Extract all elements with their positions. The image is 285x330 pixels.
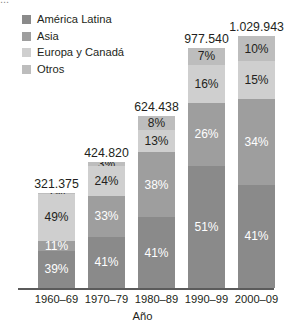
bar-total-label: 1.029.943: [229, 20, 284, 34]
bar-group[interactable]: 424.8203%24%33%41%: [88, 162, 125, 288]
plot-area: 321.3751%49%11%39%424.8203%24%33%41%624.…: [0, 0, 285, 288]
bar-segment[interactable]: 13%: [138, 130, 175, 152]
bar-total-label: 424.820: [84, 146, 128, 160]
bar-segment[interactable]: 41%: [88, 237, 125, 288]
bar-stack: 7%16%26%51%: [188, 48, 225, 288]
bar-stack: 8%13%38%41%: [138, 116, 175, 288]
bar-segment[interactable]: 10%: [238, 36, 275, 61]
bar-group[interactable]: 624.4388%13%38%41%: [138, 116, 175, 288]
bar-segment[interactable]: 49%: [38, 194, 75, 241]
bar-stack: 10%15%34%41%: [238, 36, 275, 288]
bar-stack: 3%24%33%41%: [88, 162, 125, 288]
x-axis-tick-label: 2000–09: [234, 293, 280, 305]
bar-segment[interactable]: 8%: [138, 116, 175, 130]
x-axis-tick-label: 1980–89: [134, 293, 180, 305]
bar-segment[interactable]: 38%: [138, 152, 175, 217]
bar-total-label: 321.375: [34, 177, 78, 191]
x-axis-line: [18, 288, 274, 290]
bar-group[interactable]: 1.029.94310%15%34%41%: [238, 36, 275, 288]
bar-segment[interactable]: 51%: [188, 166, 225, 288]
x-axis-tick-labels: 1960–691970–791980–891990–992000–09: [0, 293, 285, 309]
stacked-bar-chart: ... América LatinaAsiaEuropa y CanadáOtr…: [0, 0, 285, 330]
x-axis-tick-label: 1990–99: [184, 293, 230, 305]
x-axis-title: Año: [0, 310, 285, 322]
x-axis-tick-label: 1960–69: [34, 293, 80, 305]
bar-segment[interactable]: 24%: [88, 166, 125, 196]
bar-segment[interactable]: 33%: [88, 196, 125, 237]
bar-segment[interactable]: 41%: [138, 217, 175, 288]
bar-segment[interactable]: 15%: [238, 61, 275, 99]
bar-segment[interactable]: 16%: [188, 65, 225, 103]
bar-stack: 1%49%11%39%: [38, 193, 75, 288]
x-axis-tick-label: 1970–79: [84, 293, 130, 305]
bar-group[interactable]: 321.3751%49%11%39%: [38, 193, 75, 288]
bar-group[interactable]: 977.5407%16%26%51%: [188, 48, 225, 288]
bar-segment[interactable]: 11%: [38, 241, 75, 251]
bar-segment[interactable]: 41%: [238, 185, 275, 288]
bar-segment[interactable]: 34%: [238, 99, 275, 185]
bar-segment[interactable]: 26%: [188, 103, 225, 165]
bar-total-label: 977.540: [184, 32, 228, 46]
bar-segment[interactable]: 7%: [188, 48, 225, 65]
bar-total-label: 624.438: [134, 100, 178, 114]
bar-segment[interactable]: 39%: [38, 251, 75, 288]
